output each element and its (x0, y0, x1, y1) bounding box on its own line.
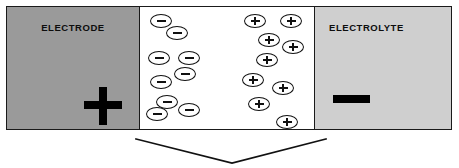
plus-glyph-vertical (286, 118, 288, 126)
minus-glyph (153, 113, 162, 115)
minus-glyph (155, 57, 164, 59)
negative-ion (150, 14, 172, 28)
plus-sign-vertical-bar (99, 87, 107, 125)
plus-sign (84, 87, 122, 125)
minus-glyph (157, 81, 166, 83)
plus-glyph-vertical (252, 76, 254, 84)
plus-glyph-vertical (268, 36, 270, 44)
positive-ion (244, 14, 266, 28)
plus-glyph-vertical (258, 100, 260, 108)
minus-glyph (185, 57, 194, 59)
plus-glyph-vertical (266, 56, 268, 64)
electrolyte-panel: ELECTROLYTE (314, 7, 451, 129)
chevron-down-arrow (134, 130, 328, 168)
positive-ion (242, 73, 264, 87)
positive-ion (248, 97, 270, 111)
plus-glyph-vertical (282, 84, 284, 92)
negative-ion (174, 67, 196, 81)
chevron-polyline (136, 139, 326, 163)
positive-ion (256, 53, 278, 67)
negative-ion (166, 26, 188, 40)
electrode-panel: ELECTRODE (7, 7, 140, 129)
minus-glyph (181, 73, 190, 75)
electrolyte-gap (140, 7, 314, 129)
plus-glyph-vertical (292, 43, 294, 51)
negative-ion (178, 51, 200, 65)
plus-glyph-vertical (290, 17, 292, 25)
negative-ion (178, 103, 200, 117)
minus-glyph (173, 32, 182, 34)
diagram-canvas: ELECTRODE ELECTROLYTE (0, 0, 459, 168)
positive-ion (276, 115, 298, 129)
minus-glyph (185, 109, 194, 111)
diagram-frame: ELECTRODE ELECTROLYTE (6, 6, 452, 130)
positive-ion (258, 33, 280, 47)
negative-ion (148, 51, 170, 65)
electrolyte-label: ELECTROLYTE (329, 23, 404, 33)
positive-ion (272, 81, 294, 95)
minus-sign (333, 95, 370, 103)
positive-ion (282, 40, 304, 54)
negative-ion (150, 75, 172, 89)
minus-glyph (157, 20, 166, 22)
electrode-label: ELECTRODE (7, 23, 139, 33)
minus-glyph (163, 101, 172, 103)
negative-ion (146, 107, 168, 121)
plus-glyph-vertical (254, 17, 256, 25)
positive-ion (280, 14, 302, 28)
